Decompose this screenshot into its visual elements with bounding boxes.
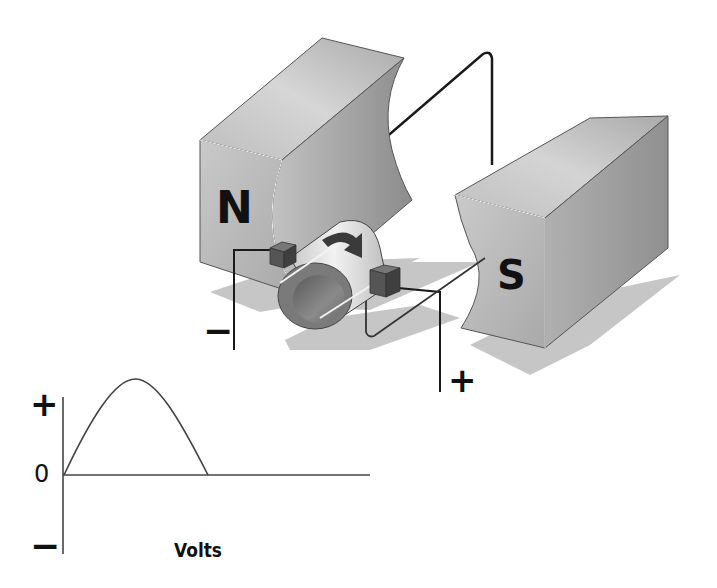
positive-terminal-label: + — [448, 363, 477, 397]
graph-minus-label: − — [30, 528, 60, 564]
north-pole-label: N — [216, 186, 253, 230]
graph-zero-label: 0 — [34, 462, 49, 486]
brush-left — [270, 242, 296, 268]
south-magnet — [455, 116, 668, 348]
voltage-graph — [63, 379, 370, 554]
generator-diagram: N S − + + 0 − Volts — [0, 0, 717, 588]
negative-terminal-label: − — [203, 313, 233, 349]
south-pole-label: S — [497, 255, 526, 295]
graph-plus-label: + — [30, 387, 59, 421]
graph-axis-title: Volts — [174, 540, 222, 560]
brush-right — [370, 265, 400, 297]
half-wave-curve — [64, 379, 208, 475]
